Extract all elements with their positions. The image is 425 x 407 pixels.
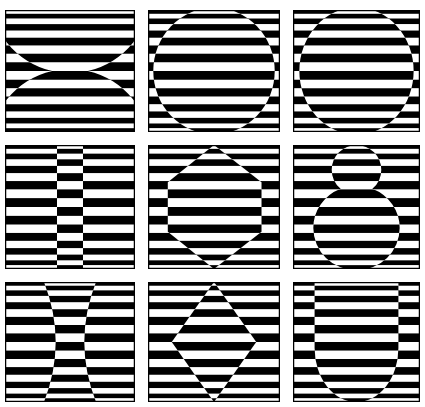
panel-hourglass-arcs <box>5 10 135 132</box>
panel-figure-eight <box>293 145 420 269</box>
panel-concave-hourglass <box>5 282 135 402</box>
panel-ring-with-inner-circle <box>293 10 420 132</box>
panel-circle <box>148 10 280 132</box>
panel-u-shape <box>293 282 420 402</box>
panel-vertical-band <box>5 145 135 269</box>
panel-diamond <box>148 282 280 402</box>
panel-hexagon <box>148 145 280 269</box>
